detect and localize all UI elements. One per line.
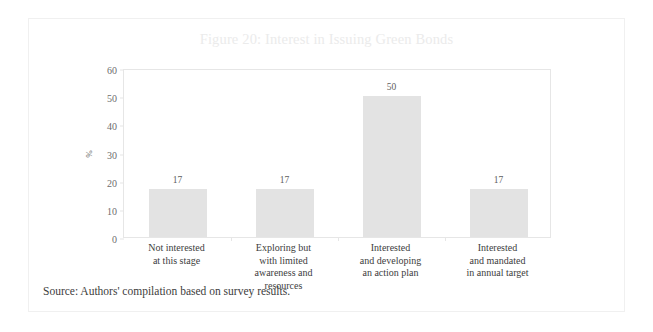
- y-axis-tick-label: 20: [107, 177, 117, 188]
- y-axis-tick-label: 0: [112, 234, 117, 245]
- bar-group: 17: [124, 70, 231, 237]
- y-axis-tick-label: 10: [107, 205, 117, 216]
- y-axis-tick-mark: [120, 239, 124, 240]
- bar[interactable]: [470, 189, 528, 237]
- bar-value-label: 17: [173, 176, 183, 186]
- plot-area: 010203040506017175017: [123, 69, 551, 238]
- bar[interactable]: [363, 96, 421, 237]
- x-axis-tick-mark: [231, 237, 232, 241]
- y-axis-tick-label: 60: [107, 65, 117, 76]
- bar[interactable]: [149, 189, 207, 237]
- y-axis-tick-label: 40: [107, 121, 117, 132]
- x-axis-category-line: awareness and: [225, 267, 343, 280]
- x-axis-category-line: Not interested: [118, 242, 236, 255]
- bar[interactable]: [256, 189, 314, 237]
- bar-group: 17: [445, 70, 552, 237]
- bar-value-label: 50: [387, 83, 397, 93]
- source-note: Source: Authors' compilation based on su…: [43, 285, 290, 297]
- x-axis-category-line: in annual target: [439, 267, 557, 280]
- y-axis-tick-label: 50: [107, 93, 117, 104]
- bar-value-label: 17: [280, 176, 290, 186]
- x-axis-category-line: Exploring but: [225, 242, 343, 255]
- x-axis-category-label: Not interestedat this stage: [118, 242, 236, 267]
- x-axis-category-line: Interested: [332, 242, 450, 255]
- x-axis-category-line: at this stage: [118, 255, 236, 268]
- bar-chart: % 010203040506017175017 Not interestedat…: [29, 47, 626, 277]
- x-axis-category-line: and developing: [332, 255, 450, 268]
- x-axis-category-label: Interestedand developingan action plan: [332, 242, 450, 280]
- y-axis-label: %: [85, 69, 93, 238]
- y-axis-label-text: %: [84, 150, 94, 158]
- bar-value-label: 17: [494, 176, 504, 186]
- figure-card: Figure 20: Interest in Issuing Green Bon…: [28, 18, 625, 312]
- y-axis-tick-label: 30: [107, 149, 117, 160]
- x-axis-tick-mark: [338, 237, 339, 241]
- x-axis-category-line: and mandated: [439, 255, 557, 268]
- x-axis-category-line: with limited: [225, 255, 343, 268]
- x-axis-category-line: an action plan: [332, 267, 450, 280]
- bar-group: 17: [231, 70, 338, 237]
- bar-group: 50: [338, 70, 445, 237]
- x-axis-tick-mark: [445, 237, 446, 241]
- x-axis-category-label: Interestedand mandatedin annual target: [439, 242, 557, 280]
- figure-title: Figure 20: Interest in Issuing Green Bon…: [29, 31, 624, 48]
- x-axis-category-line: Interested: [439, 242, 557, 255]
